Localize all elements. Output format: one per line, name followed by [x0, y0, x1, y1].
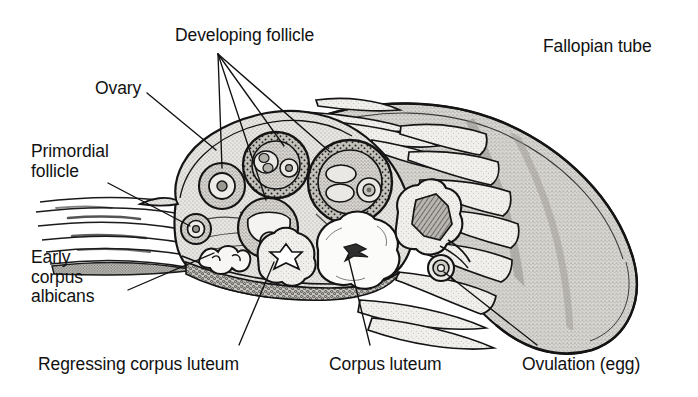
label-primordial-follicle-line2: follicle [31, 162, 109, 182]
anatomy-illustration [0, 0, 698, 397]
regressing-corpus-luteum [258, 228, 316, 286]
label-early-corpus-albicans-line3: albicans [31, 287, 94, 307]
leader-ovary [147, 93, 216, 150]
developing-follicle-secondary [243, 132, 309, 198]
label-ovulation-egg: Ovulation (egg) [522, 355, 640, 375]
label-corpus-luteum: Corpus luteum [329, 355, 442, 375]
primordial-follicle [181, 214, 211, 244]
corpus-luteum [317, 212, 399, 289]
label-early-corpus-albicans: Early corpus albicans [31, 248, 94, 307]
label-ovary: Ovary [95, 79, 141, 99]
developing-follicle-mature [308, 140, 392, 224]
label-fallopian-tube: Fallopian tube [543, 37, 652, 57]
label-early-corpus-albicans-line1: Early [31, 248, 94, 268]
label-developing-follicle: Developing follicle [175, 26, 314, 46]
developing-follicle-primary [199, 163, 245, 209]
label-regressing-corpus-luteum: Regressing corpus luteum [38, 355, 239, 375]
label-primordial-follicle-line1: Primordial [31, 142, 109, 162]
label-primordial-follicle: Primordial follicle [31, 142, 109, 181]
label-early-corpus-albicans-line2: corpus [31, 268, 94, 288]
ovary-fallopian-tube-figure: Developing follicle Fallopian tube Ovary… [0, 0, 698, 397]
